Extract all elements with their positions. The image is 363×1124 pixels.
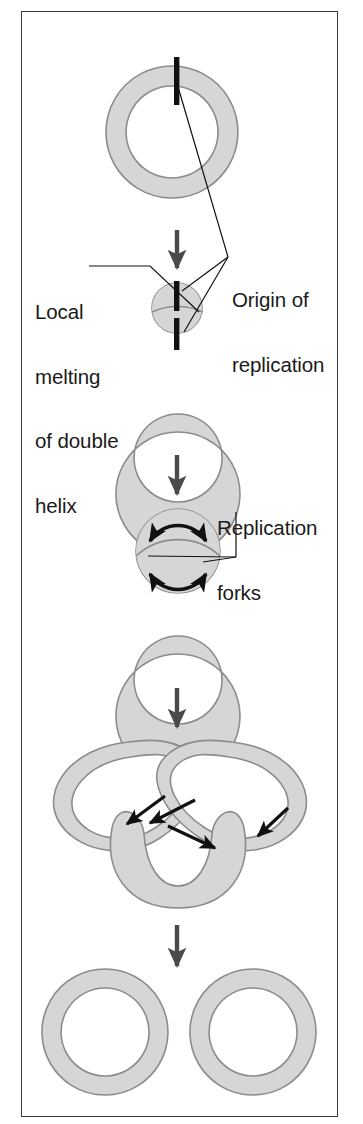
origin-marker-stage2-lower — [174, 318, 179, 350]
leader-origin-to-stage2-upper — [182, 257, 228, 291]
daughter-circle-right — [190, 969, 316, 1095]
figure-root: Origin of replication Local melting of d… — [0, 0, 363, 1124]
label-replication-forks: Replication forks — [217, 474, 317, 646]
label-origin-line1: Origin of — [232, 289, 324, 311]
label-local-melting-line4: helix — [35, 495, 118, 517]
label-replication-forks-line1: Replication — [217, 517, 317, 539]
label-local-melting-line1: Local — [35, 301, 118, 323]
dna-circle-stage1 — [106, 66, 238, 198]
theta-bottom-loop — [110, 812, 245, 908]
label-local-melting-line2: melting — [35, 366, 118, 388]
daughter-circle-left — [42, 969, 168, 1095]
origin-marker-stage2-upper — [174, 281, 179, 311]
stage-4-theta-intermediate — [54, 740, 307, 908]
stage-5-two-daughter-circles — [42, 969, 316, 1095]
label-local-melting: Local melting of double helix — [35, 258, 118, 559]
label-origin-line2: replication — [232, 354, 324, 376]
label-local-melting-line3: of double — [35, 430, 118, 452]
label-replication-forks-line2: forks — [217, 582, 317, 604]
stage-1-intact-circle — [106, 57, 238, 198]
label-origin-of-replication: Origin of replication — [232, 246, 324, 418]
